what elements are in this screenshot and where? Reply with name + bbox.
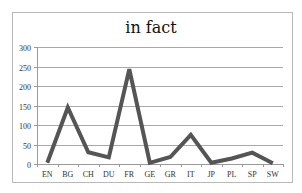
x-tick-label: SW — [267, 170, 279, 179]
y-axis: 050100150200250300 — [19, 44, 38, 170]
x-tick-label: JP — [207, 170, 215, 179]
x-tick-label: DU — [103, 170, 115, 179]
x-tick-label: EN — [42, 170, 53, 179]
x-tick-label: SP — [248, 170, 257, 179]
x-tick-label: FR — [124, 170, 134, 179]
x-axis: ENBGCHDUFRGEGRITJPPLSPSW — [38, 164, 284, 179]
y-tick-label: 0 — [27, 161, 31, 170]
x-tick-label: CH — [83, 170, 94, 179]
x-tick-label: IT — [187, 170, 195, 179]
gridlines — [37, 48, 283, 165]
line-chart: 050100150200250300 ENBGCHDUFRGEGRITJPPLS… — [0, 0, 302, 193]
x-tick-label: GR — [165, 170, 177, 179]
y-tick-label: 200 — [19, 83, 31, 92]
x-tick-label: BG — [62, 170, 73, 179]
y-tick-label: 100 — [19, 122, 31, 131]
y-tick-label: 300 — [19, 44, 31, 53]
data-line — [47, 69, 272, 163]
y-tick-label: 250 — [19, 64, 31, 73]
y-tick-label: 50 — [23, 142, 31, 151]
y-tick-label: 150 — [19, 103, 31, 112]
x-tick-label: PL — [227, 170, 236, 179]
x-tick-label: GE — [144, 170, 155, 179]
